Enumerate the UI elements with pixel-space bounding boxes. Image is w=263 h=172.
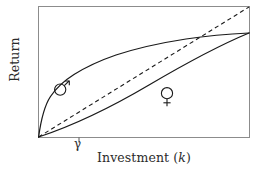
female-symbol-icon — [158, 86, 176, 108]
x-axis-label-variable: k — [178, 150, 186, 165]
x-axis-label: Investment (k) — [97, 150, 191, 165]
gamma-tick-label: γ — [74, 137, 81, 151]
plot-svg — [0, 0, 263, 172]
tangent-dashed-line — [39, 7, 249, 137]
y-axis-label: Return — [7, 30, 22, 90]
male-symbol-icon — [52, 78, 72, 98]
x-axis-label-text: Investment ( — [97, 150, 178, 165]
figure-panel: Return Investment (k) γ — [0, 0, 263, 172]
x-axis-label-close: ) — [186, 150, 191, 165]
